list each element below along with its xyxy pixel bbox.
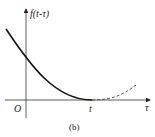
x-axis-label: τ <box>145 102 149 113</box>
caption: (b) <box>69 122 80 132</box>
dashed-curve <box>92 85 136 100</box>
diagram: f(t-τ) τ O t (b) <box>0 0 155 137</box>
solid-curve <box>6 29 92 100</box>
t-label: t <box>89 103 92 114</box>
y-axis-label: f(t-τ) <box>30 8 50 20</box>
origin-label: O <box>14 103 21 114</box>
